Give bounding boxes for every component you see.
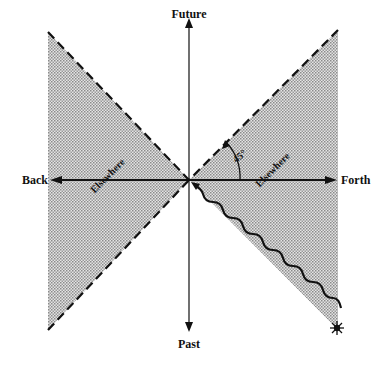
spacetime-diagram: 45° Future Past Back Forth Elsewhere Els…: [0, 0, 387, 366]
elsewhere-left-region: [48, 32, 189, 330]
forth-label: Forth: [341, 173, 371, 187]
back-label: Back: [22, 173, 48, 187]
past-label: Past: [178, 337, 200, 351]
future-label: Future: [171, 7, 207, 21]
star-burst-icon: [330, 321, 344, 335]
